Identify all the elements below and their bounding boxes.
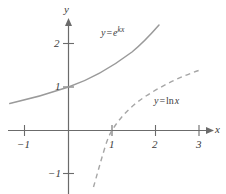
log-label-equals: = [158, 95, 166, 106]
x-tick-label-1: 1 [109, 139, 115, 150]
y-tick-label-1: 1 [55, 81, 61, 92]
exponential-logarithm-graph-figure: y x −1 1 2 3 2 1 −1 y=ekx y=ln x [0, 0, 226, 194]
exp-label-exponent: kx [118, 25, 125, 34]
y-axis-arrowhead [65, 18, 72, 26]
x-axis-arrowhead [206, 127, 214, 134]
y-tick-label-neg1: −1 [48, 168, 61, 179]
y-tick-label-2: 2 [54, 38, 60, 49]
x-axis-label: x [215, 124, 220, 135]
x-tick-label-3: 3 [196, 139, 202, 150]
x-tick-label-neg1: −1 [17, 139, 30, 150]
curve-logarithm [94, 70, 201, 187]
exp-label-equals: = [105, 27, 113, 38]
log-label-arg: x [175, 95, 179, 106]
y-axis-label: y [64, 4, 69, 15]
logarithm-curve-label: y=ln x [154, 96, 179, 106]
x-tick-label-2: 2 [152, 139, 158, 150]
curve-exponential [10, 25, 159, 104]
log-label-fn: ln [166, 95, 174, 106]
exponential-curve-label: y=ekx [101, 28, 124, 38]
